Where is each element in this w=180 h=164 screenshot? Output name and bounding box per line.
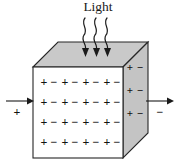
minus-sign: − bbox=[72, 115, 79, 129]
minus-sign: − bbox=[51, 95, 58, 109]
minus-sign: − bbox=[114, 75, 121, 89]
minus-sign: − bbox=[114, 95, 121, 109]
plus-sign: + bbox=[104, 95, 111, 109]
plus-sign: + bbox=[127, 107, 133, 119]
light-label: Light bbox=[83, 0, 112, 14]
minus-sign: − bbox=[51, 75, 58, 89]
plus-sign: + bbox=[104, 115, 111, 129]
plus-sign: + bbox=[41, 115, 48, 129]
minus-sign: − bbox=[72, 75, 79, 89]
minus-sign: − bbox=[93, 115, 100, 129]
plus-sign: + bbox=[41, 75, 48, 89]
plus-sign: + bbox=[104, 135, 111, 149]
minus-sign: − bbox=[93, 135, 100, 149]
minus-sign: − bbox=[114, 135, 121, 149]
negative-terminal-label: − bbox=[157, 105, 164, 119]
plus-sign: + bbox=[62, 75, 69, 89]
plus-sign: + bbox=[127, 84, 133, 96]
photoconductive-cube-figure: Light + − + − + bbox=[0, 0, 180, 164]
plus-sign: + bbox=[41, 95, 48, 109]
plus-sign: + bbox=[62, 95, 69, 109]
minus-sign: − bbox=[72, 135, 79, 149]
minus-sign: − bbox=[93, 75, 100, 89]
minus-sign: − bbox=[137, 107, 143, 119]
plus-sign: + bbox=[83, 115, 90, 129]
minus-sign: − bbox=[137, 84, 143, 96]
right-terminal-lead: − bbox=[146, 98, 174, 120]
plus-sign: + bbox=[62, 135, 69, 149]
minus-sign: − bbox=[93, 95, 100, 109]
plus-sign: + bbox=[104, 75, 111, 89]
plus-sign: + bbox=[83, 75, 90, 89]
plus-sign: + bbox=[83, 135, 90, 149]
minus-sign: − bbox=[51, 135, 58, 149]
plus-sign: + bbox=[127, 61, 133, 73]
light-ray-group bbox=[82, 18, 111, 57]
minus-sign: − bbox=[51, 115, 58, 129]
minus-sign: − bbox=[137, 61, 143, 73]
plus-sign: + bbox=[62, 115, 69, 129]
minus-sign: − bbox=[72, 95, 79, 109]
left-terminal-lead: + bbox=[6, 98, 34, 120]
minus-sign: − bbox=[114, 115, 121, 129]
plus-sign: + bbox=[41, 135, 48, 149]
positive-terminal-label: + bbox=[14, 105, 21, 119]
plus-sign: + bbox=[83, 95, 90, 109]
